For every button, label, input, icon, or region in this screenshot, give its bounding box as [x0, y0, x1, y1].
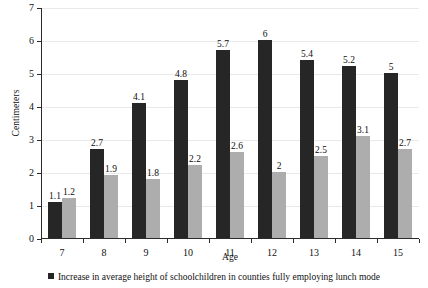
bar: [272, 172, 286, 238]
bar-value-label: 5.4: [292, 49, 322, 59]
x-tick-mark: [377, 239, 378, 243]
gridline: [41, 8, 419, 9]
bar-value-label: 4.1: [124, 92, 154, 102]
x-tick-mark: [251, 239, 252, 243]
y-tick-label: 3: [19, 135, 34, 145]
x-tick-mark: [41, 239, 42, 243]
bar-value-label: 1.9: [96, 164, 126, 174]
bar: [230, 152, 244, 238]
bar-value-label: 4.8: [166, 69, 196, 79]
bar-value-label: 2.7: [390, 138, 420, 148]
bar: [48, 202, 62, 238]
y-tick-label: 4: [19, 102, 34, 112]
gridline: [41, 74, 419, 75]
bar: [384, 73, 398, 238]
x-tick-mark: [335, 239, 336, 243]
y-tick-label: 7: [19, 3, 34, 13]
legend-swatch-icon: [48, 273, 54, 279]
bar-value-label: 2: [264, 161, 294, 171]
x-tick-mark: [419, 239, 420, 243]
gridline: [41, 107, 419, 108]
y-tick-label: 2: [19, 168, 34, 178]
bar: [104, 175, 118, 238]
bar: [62, 198, 76, 238]
x-tick-mark: [167, 239, 168, 243]
bar-value-label: 5: [376, 62, 406, 72]
bar: [398, 149, 412, 238]
x-tick-mark: [293, 239, 294, 243]
y-tick-label: 0: [19, 234, 34, 244]
legend-entry: Increase in average height of schoolchil…: [48, 271, 380, 283]
bar-value-label: 2.2: [180, 154, 210, 164]
bar: [314, 156, 328, 239]
bar: [146, 179, 160, 238]
bar-value-label: 2.6: [222, 141, 252, 151]
x-axis-line: [41, 238, 419, 239]
bar: [188, 165, 202, 238]
x-tick-mark: [83, 239, 84, 243]
bar-value-label: 2.5: [306, 145, 336, 155]
x-tick-mark: [125, 239, 126, 243]
plot-area: 01234567 1.11.22.71.94.11.84.82.25.72.66…: [41, 8, 419, 239]
x-axis-title: Age: [41, 252, 419, 262]
bar: [342, 66, 356, 238]
x-tick-mark: [209, 239, 210, 243]
bar-value-label: 3.1: [348, 125, 378, 135]
bar-value-label: 6: [250, 29, 280, 39]
bar: [258, 40, 272, 238]
bar-value-label: 5.7: [208, 39, 238, 49]
legend-label: Increase in average height of schoolchil…: [58, 272, 380, 282]
y-tick-label: 1: [19, 201, 34, 211]
bar: [356, 136, 370, 238]
bar-value-label: 1.8: [138, 168, 168, 178]
bar-chart-figure: Centimeters 01234567 1.11.22.71.94.11.84…: [0, 0, 428, 288]
bar-value-label: 2.7: [82, 138, 112, 148]
bar-value-label: 5.2: [334, 55, 364, 65]
y-axis-line: [41, 8, 42, 239]
chart-legend: Increase in average height of schoolchil…: [0, 270, 428, 283]
y-tick-label: 5: [19, 69, 34, 79]
bar-value-label: 1.2: [54, 187, 84, 197]
bar: [90, 149, 104, 238]
y-tick-label: 6: [19, 36, 34, 46]
